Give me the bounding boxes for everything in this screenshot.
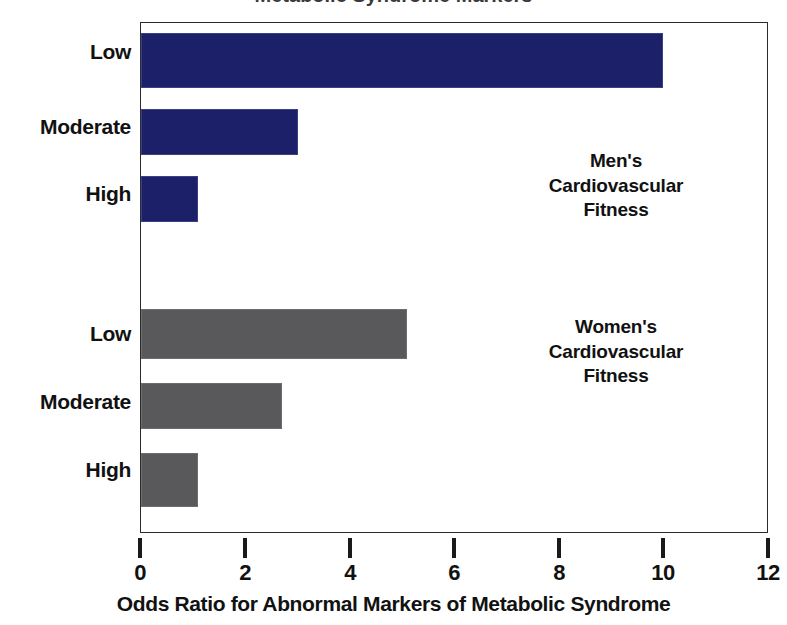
x-tick-mark-10 (661, 538, 665, 558)
category-label-men-high: High (0, 182, 131, 206)
category-label-text: Moderate (40, 390, 131, 413)
x-tick-label-10: 10 (643, 560, 683, 586)
cropped-header-text: Metabolic Syndrome Markers (0, 0, 787, 9)
category-label-text: Low (90, 322, 131, 345)
x-tick-mark-6 (452, 538, 456, 558)
x-tick-label-8: 8 (539, 560, 579, 586)
annotation-womens-line2: Cardiovascular (486, 340, 746, 365)
bar-men-high (141, 176, 198, 222)
bar-men-moderate (141, 109, 298, 155)
category-label-text: Moderate (40, 115, 131, 138)
annotation-mens-fitness: Men's Cardiovascular Fitness (486, 149, 746, 223)
bar-women-high (141, 453, 198, 507)
category-label-text: High (86, 458, 131, 481)
bar-men-low (141, 33, 663, 88)
x-tick-mark-4 (348, 538, 352, 558)
category-label-women-moderate: Moderate (0, 390, 131, 414)
plot-area: Men's Cardiovascular Fitness Women's Car… (140, 22, 768, 533)
x-tick-label-0: 0 (120, 560, 160, 586)
category-label-men-low: Low (0, 40, 131, 64)
category-label-text: Low (90, 40, 131, 63)
bar-women-moderate (141, 383, 282, 429)
annotation-womens-line1: Women's (486, 315, 746, 340)
annotation-mens-line1: Men's (486, 149, 746, 174)
annotation-mens-line2: Cardiovascular (486, 174, 746, 199)
x-tick-label-12: 12 (748, 560, 787, 586)
category-label-text: High (86, 182, 131, 205)
x-axis-title: Odds Ratio for Abnormal Markers of Metab… (0, 592, 787, 616)
category-label-women-low: Low (0, 322, 131, 346)
cropped-header-text-label: Metabolic Syndrome Markers (0, 0, 787, 7)
annotation-womens-line3: Fitness (486, 364, 746, 389)
bar-women-low (141, 309, 407, 359)
x-tick-mark-2 (243, 538, 247, 558)
x-tick-mark-12 (766, 538, 770, 558)
category-label-men-moderate: Moderate (0, 115, 131, 139)
chart-figure: Metabolic Syndrome Markers Men's Cardiov… (0, 0, 787, 625)
x-tick-label-4: 4 (330, 560, 370, 586)
annotation-womens-fitness: Women's Cardiovascular Fitness (486, 315, 746, 389)
annotation-mens-line3: Fitness (486, 198, 746, 223)
x-tick-label-2: 2 (225, 560, 265, 586)
category-label-women-high: High (0, 458, 131, 482)
x-tick-mark-0 (138, 538, 142, 558)
x-tick-label-6: 6 (434, 560, 474, 586)
x-tick-mark-8 (557, 538, 561, 558)
